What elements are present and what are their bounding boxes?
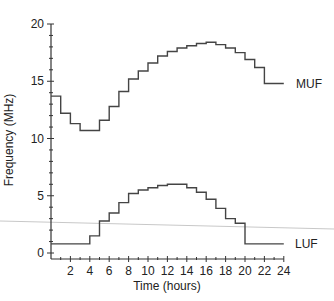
muf-series-label: MUF [296, 77, 322, 91]
x-tick-label: 4 [86, 264, 93, 278]
x-tick-label: 8 [125, 264, 132, 278]
muf-step-line [51, 42, 284, 130]
y-tick-label: 10 [31, 132, 45, 146]
x-tick-label: 22 [258, 264, 272, 278]
luf-step-line [51, 184, 284, 244]
x-tick-label: 24 [277, 264, 291, 278]
y-tick-label: 20 [31, 17, 45, 31]
x-tick-label: 20 [238, 264, 252, 278]
luf-series-label: LUF [295, 237, 318, 251]
x-tick-label: 10 [141, 264, 155, 278]
x-tick-label: 14 [180, 264, 194, 278]
scan-artifact-line [0, 221, 334, 229]
x-tick-label: 16 [200, 264, 214, 278]
y-tick-label: 0 [37, 246, 44, 260]
frequency-chart: 0510152024681012141618202224 Time (hours… [0, 0, 334, 301]
x-tick-label: 12 [161, 264, 175, 278]
y-axis-title: Frequency (MHz) [2, 94, 16, 187]
x-tick-label: 2 [67, 264, 74, 278]
x-axis-title: Time (hours) [133, 279, 201, 293]
y-tick-label: 15 [31, 74, 45, 88]
x-tick-label: 18 [219, 264, 233, 278]
x-tick-label: 6 [106, 264, 113, 278]
series-group [51, 42, 284, 244]
y-tick-label: 5 [37, 189, 44, 203]
